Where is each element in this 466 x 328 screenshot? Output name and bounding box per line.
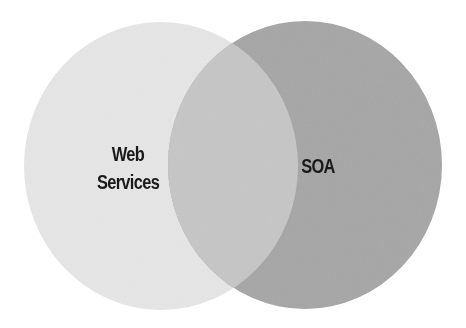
web-services-label: Web Services [87,140,169,196]
soa-label-line-1: SOA [293,152,342,180]
web-services-label-line-1: Web [87,140,169,168]
venn-diagram: Web Services SOA [0,0,466,328]
web-services-label-line-2: Services [87,168,169,196]
soa-label: SOA [293,152,342,180]
venn-circles [0,0,466,328]
